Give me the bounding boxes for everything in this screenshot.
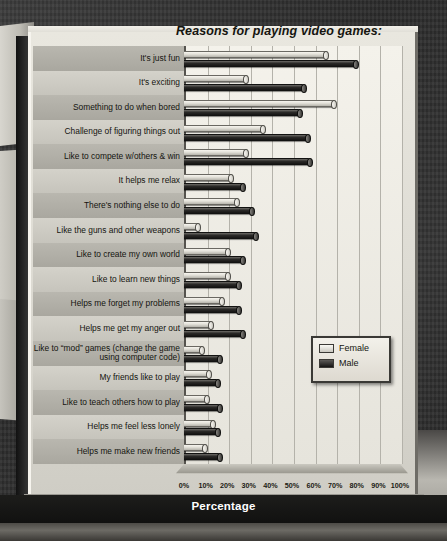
bar-end-cap: [353, 60, 359, 69]
bar-female[interactable]: [184, 346, 203, 353]
x-axis-caption: Percentage: [0, 500, 447, 512]
bar-group: [184, 193, 400, 218]
bar-end-cap: [206, 370, 212, 379]
bar-end-cap: [236, 306, 242, 315]
category-label-row: Like the guns and other weapons: [33, 218, 184, 243]
bar-end-cap: [253, 232, 259, 241]
legend-swatch-male-icon: [319, 359, 334, 368]
bar-female[interactable]: [184, 198, 238, 205]
bar-group: [184, 439, 400, 464]
bar-female[interactable]: [184, 223, 199, 230]
bar-end-cap: [297, 109, 303, 118]
bar-group: [184, 415, 400, 440]
bar-male[interactable]: [184, 158, 311, 165]
bar-male[interactable]: [184, 355, 221, 362]
category-label-text: Like the guns and other weapons: [57, 226, 180, 235]
legend-item-male[interactable]: Male: [319, 358, 383, 368]
bar-female[interactable]: [184, 100, 335, 107]
bar-end-cap: [217, 453, 223, 462]
bar-end-cap: [240, 256, 246, 265]
x-tick-80: 80%: [350, 481, 364, 490]
bar-male[interactable]: [184, 109, 301, 116]
bar-female[interactable]: [184, 51, 327, 58]
bar-male[interactable]: [184, 84, 305, 91]
bar-end-cap: [323, 51, 329, 60]
bar-male[interactable]: [184, 330, 244, 337]
bar-female[interactable]: [184, 420, 214, 427]
bar-end-cap: [199, 346, 205, 355]
bar-series-container: [184, 46, 400, 464]
category-label-text: There's nothing else to do: [84, 201, 180, 210]
category-label-row: Something to do when bored: [33, 95, 184, 120]
bar-male[interactable]: [184, 453, 221, 460]
bar-male[interactable]: [184, 404, 221, 411]
bar-female[interactable]: [184, 174, 232, 181]
bar-group: [184, 46, 400, 71]
legend-label-male: Male: [339, 358, 359, 368]
category-label-text: Something to do when bored: [73, 103, 180, 112]
category-label-row: Like to compete w/others & win: [33, 144, 184, 169]
bar-end-cap: [240, 183, 246, 192]
bar-end-cap: [215, 379, 221, 388]
bar-end-cap: [204, 395, 210, 404]
bar-male[interactable]: [184, 306, 240, 313]
bar-female[interactable]: [184, 149, 247, 156]
category-label-text: Helps me get my anger out: [79, 324, 180, 333]
bar-male[interactable]: [184, 281, 240, 288]
x-tick-100: 100%: [391, 481, 409, 490]
category-label-text: Helps me forget my problems: [71, 299, 180, 308]
bar-end-cap: [219, 297, 225, 306]
bar-end-cap: [228, 174, 234, 183]
background-bottom-sheen: [0, 523, 447, 541]
x-axis-tick-labels: 0%10%20%30%40%50%60%70%80%90%100%: [184, 481, 406, 493]
category-label-column: It's just funIt's excitingSomething to d…: [33, 46, 184, 464]
x-tick-0: 0%: [179, 481, 189, 490]
bar-female[interactable]: [184, 321, 212, 328]
category-label-row: Like to create my own world: [33, 243, 184, 268]
category-label-row: Like to “mod” games (change the game usi…: [33, 341, 184, 366]
bar-male[interactable]: [184, 134, 309, 141]
category-label-row: There's nothing else to do: [33, 193, 184, 218]
category-label-row: Challenge of figuring things out: [33, 120, 184, 145]
bar-group: [184, 95, 400, 120]
category-label-row: Helps me forget my problems: [33, 292, 184, 317]
bar-group: [184, 144, 400, 169]
x-tick-40: 40%: [263, 481, 277, 490]
legend-item-female[interactable]: Female: [319, 343, 383, 353]
x-tick-60: 60%: [306, 481, 320, 490]
bar-end-cap: [208, 321, 214, 330]
x-tick-50: 50%: [285, 481, 299, 490]
category-label-text: Like to “mod” games (change the game usi…: [33, 344, 180, 363]
bar-end-cap: [260, 125, 266, 134]
x-tick-30: 30%: [242, 481, 256, 490]
bar-female[interactable]: [184, 125, 264, 132]
bar-male[interactable]: [184, 379, 219, 386]
bar-female[interactable]: [184, 272, 229, 279]
bar-male[interactable]: [184, 60, 357, 67]
bar-group: [184, 267, 400, 292]
bar-female[interactable]: [184, 444, 206, 451]
bar-end-cap: [225, 272, 231, 281]
category-label-text: Helps me feel less lonely: [87, 422, 180, 431]
bar-male[interactable]: [184, 183, 244, 190]
bar-end-cap: [225, 248, 231, 257]
x-tick-90: 90%: [371, 481, 385, 490]
bar-female[interactable]: [184, 75, 247, 82]
category-label-row: It's exciting: [33, 71, 184, 96]
bar-male[interactable]: [184, 428, 219, 435]
x-tick-70: 70%: [328, 481, 342, 490]
bar-group: [184, 390, 400, 415]
bar-male[interactable]: [184, 256, 244, 263]
bar-end-cap: [240, 330, 246, 339]
bar-female[interactable]: [184, 248, 229, 255]
bar-female[interactable]: [184, 297, 223, 304]
bar-male[interactable]: [184, 232, 257, 239]
bar-end-cap: [305, 134, 311, 143]
x-tick-20: 20%: [220, 481, 234, 490]
bar-male[interactable]: [184, 207, 253, 214]
bar-end-cap: [243, 75, 249, 84]
bar-female[interactable]: [184, 395, 208, 402]
bar-female[interactable]: [184, 370, 210, 377]
bar-end-cap: [202, 444, 208, 453]
legend-swatch-female-icon: [319, 344, 334, 353]
